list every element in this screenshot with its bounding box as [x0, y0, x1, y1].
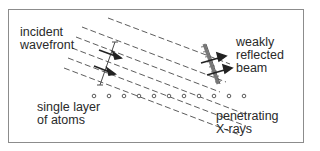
atom — [227, 94, 231, 98]
atom — [107, 94, 111, 98]
label-line: X-rays — [216, 123, 279, 136]
atom-layer — [92, 94, 246, 98]
incident-wavefront-label: incident wavefront — [20, 26, 74, 52]
ray-line-2 — [76, 37, 220, 92]
label-line: of atoms — [37, 114, 100, 127]
atom — [122, 94, 126, 98]
label-line: wavefront — [20, 39, 74, 52]
label-line: beam — [236, 62, 284, 75]
incident-wavefront — [97, 42, 118, 85]
atom — [182, 94, 186, 98]
atom — [212, 94, 216, 98]
weakly-reflected-beam-label: weakly reflected beam — [236, 36, 284, 75]
atom — [92, 94, 96, 98]
reflected-arrows — [201, 53, 232, 75]
atom — [137, 94, 141, 98]
reflected-wavefront — [201, 44, 221, 84]
atom — [152, 94, 156, 98]
single-layer-of-atoms-label: single layer of atoms — [37, 101, 100, 127]
atom — [197, 94, 201, 98]
ray-line-0 — [108, 18, 230, 64]
atom — [167, 94, 171, 98]
penetrating-xrays-label: penetrating X-rays — [216, 110, 279, 136]
atom — [242, 94, 246, 98]
